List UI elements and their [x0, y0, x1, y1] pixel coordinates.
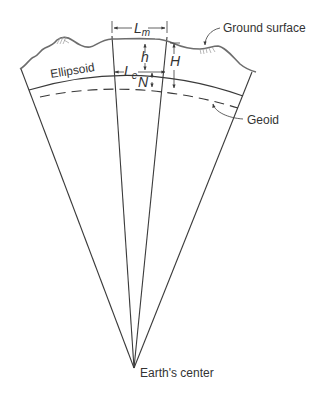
earths-center-label: Earth's center — [140, 366, 214, 380]
Le-label: Le — [124, 63, 138, 81]
ground-surface-label: Ground surface — [223, 21, 306, 35]
N-label: N — [138, 74, 149, 90]
geoid-label: Geoid — [247, 113, 279, 127]
radial-lines — [21, 36, 252, 368]
ground-surface-leader — [205, 28, 220, 45]
h-label: h — [141, 49, 149, 65]
Lm-label: Lm — [134, 20, 150, 38]
H-label: H — [170, 53, 181, 69]
geoid-line — [40, 89, 238, 108]
geodesy-diagram: Lm h Le N H Ellipsoid Ground surface Geo… — [0, 0, 312, 393]
right-boundary-line — [134, 72, 252, 368]
